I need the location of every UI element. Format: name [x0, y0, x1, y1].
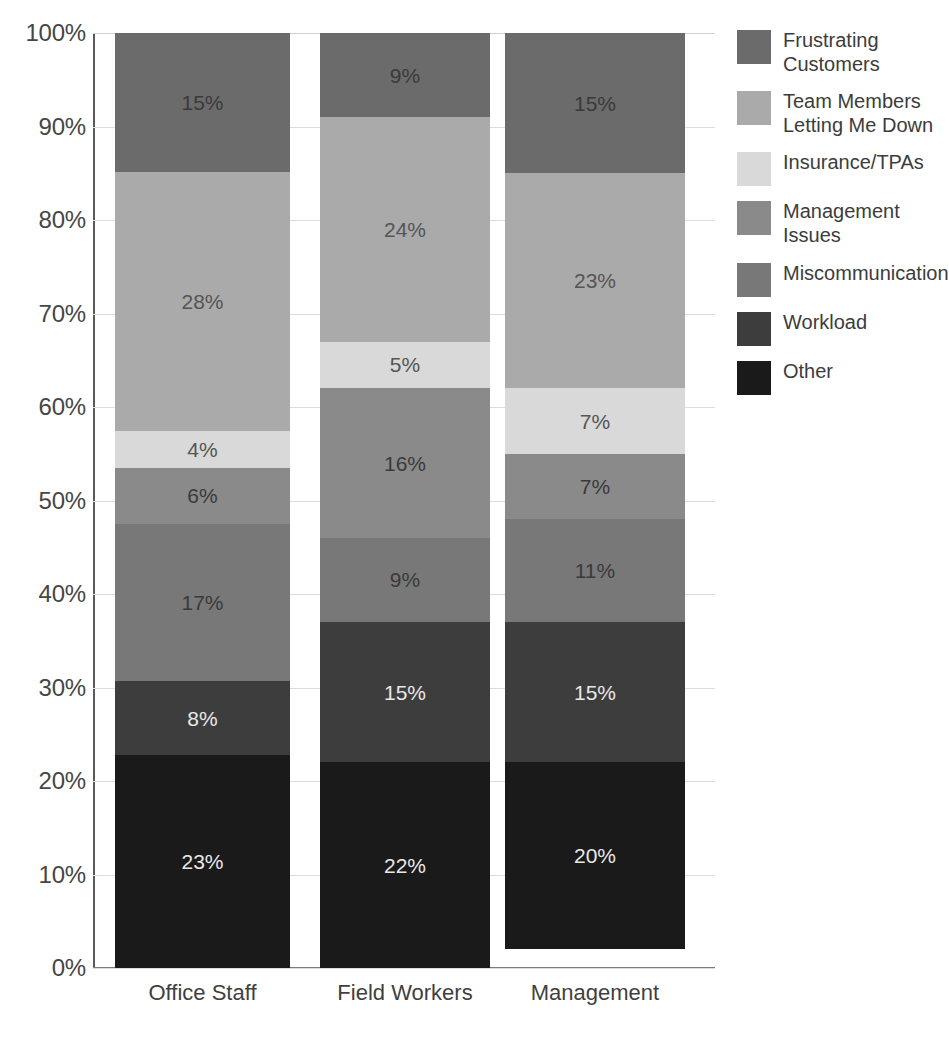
bar-segment[interactable]: 17%: [115, 524, 290, 681]
bar-segment[interactable]: 5%: [320, 342, 490, 389]
bar-segment-value-label: 5%: [390, 354, 420, 375]
bar-segment[interactable]: 15%: [505, 33, 685, 173]
legend-item-label: Insurance/TPAs: [783, 150, 924, 175]
bar-segment-value-label: 11%: [575, 560, 615, 581]
legend-item-label: Miscommunication: [783, 261, 949, 286]
bar-segment-value-label: 28%: [181, 291, 223, 312]
bar-segment[interactable]: 9%: [320, 538, 490, 622]
stacked-bar[interactable]: 9%24%5%16%9%15%22%: [320, 33, 490, 968]
bar-segment-value-label: 15%: [384, 682, 426, 703]
y-axis-tick-label: 10%: [6, 861, 86, 889]
y-axis-tick-label: 100%: [6, 19, 86, 47]
legend-item[interactable]: Team Members Letting Me Down: [737, 89, 949, 137]
y-axis-tick-label: 40%: [6, 580, 86, 608]
gridline: [93, 968, 715, 969]
bar-segment[interactable]: 24%: [320, 117, 490, 341]
bar-segment-value-label: 16%: [384, 453, 426, 474]
bar-segment-value-label: 15%: [574, 682, 616, 703]
bar-segment-value-label: 23%: [574, 270, 616, 291]
bar-segment[interactable]: 11%: [505, 519, 685, 622]
legend-swatch: [737, 361, 771, 395]
legend-swatch: [737, 30, 771, 64]
y-axis-tick-label: 90%: [6, 113, 86, 141]
bar-group[interactable]: 15%23%7%7%11%15%20%: [505, 33, 685, 968]
bar-segment[interactable]: 7%: [505, 388, 685, 453]
legend-item[interactable]: Management Issues: [737, 199, 949, 247]
bar-segment[interactable]: 22%: [320, 762, 490, 968]
plot-area: 15%28%4%6%17%8%23%9%24%5%16%9%15%22%15%2…: [93, 33, 715, 968]
bar-segment-value-label: 23%: [181, 851, 223, 872]
bar-group[interactable]: 9%24%5%16%9%15%22%: [320, 33, 490, 968]
legend-swatch: [737, 312, 771, 346]
y-axis-tick-label: 60%: [6, 393, 86, 421]
y-axis-tick-label: 20%: [6, 767, 86, 795]
bar-segment-value-label: 17%: [181, 592, 223, 613]
bar-segment[interactable]: 6%: [115, 468, 290, 524]
legend-item[interactable]: Workload: [737, 310, 949, 346]
bar-segment-value-label: 15%: [574, 93, 616, 114]
bar-group[interactable]: 15%28%4%6%17%8%23%: [115, 33, 290, 968]
bar-segment[interactable]: 8%: [115, 681, 290, 755]
y-axis-tick-labels: 0%10%20%30%40%50%60%70%80%90%100%: [0, 33, 86, 968]
bar-segment[interactable]: 7%: [505, 454, 685, 519]
legend-item[interactable]: Frustrating Customers: [737, 28, 949, 76]
y-axis-tick-label: 50%: [6, 487, 86, 515]
legend-swatch: [737, 201, 771, 235]
bar-segment[interactable]: 16%: [320, 388, 490, 538]
legend-swatch: [737, 263, 771, 297]
bar-segment[interactable]: 23%: [505, 173, 685, 388]
legend-item-label: Other: [783, 359, 833, 384]
legend-item[interactable]: Miscommunication: [737, 261, 949, 297]
bar-segment[interactable]: 15%: [115, 33, 290, 172]
bar-segment-value-label: 9%: [390, 569, 420, 590]
bar-segment-value-label: 6%: [187, 485, 217, 506]
bar-segment[interactable]: 20%: [505, 762, 685, 949]
legend-swatch: [737, 91, 771, 125]
legend-item-label: Frustrating Customers: [783, 28, 880, 76]
legend-item-label: Management Issues: [783, 199, 949, 247]
bar-segment-value-label: 15%: [181, 92, 223, 113]
y-axis-tick-label: 70%: [6, 300, 86, 328]
legend-item[interactable]: Other: [737, 359, 949, 395]
bar-segment-value-label: 8%: [187, 708, 217, 729]
bar-segment-value-label: 20%: [574, 845, 616, 866]
stacked-bar[interactable]: 15%23%7%7%11%15%20%: [505, 33, 685, 968]
bar-segment-value-label: 24%: [384, 219, 426, 240]
x-axis-tick-label: Office Staff: [115, 980, 290, 1006]
x-axis-tick-label: Management: [505, 980, 685, 1006]
stacked-bar-chart: 0%10%20%30%40%50%60%70%80%90%100% 15%28%…: [0, 0, 949, 1039]
y-axis-tick-label: 30%: [6, 674, 86, 702]
bar-segment[interactable]: 15%: [320, 622, 490, 762]
y-axis-tick-label: 80%: [6, 206, 86, 234]
bar-segment-value-label: 22%: [384, 855, 426, 876]
stacked-bar[interactable]: 15%28%4%6%17%8%23%: [115, 33, 290, 968]
bar-segment[interactable]: 28%: [115, 172, 290, 431]
legend-item[interactable]: Insurance/TPAs: [737, 150, 949, 186]
x-axis-tick-label: Field Workers: [320, 980, 490, 1006]
legend-swatch: [737, 152, 771, 186]
bar-segment-value-label: 7%: [580, 476, 610, 497]
bar-segment[interactable]: 9%: [320, 33, 490, 117]
legend-item-label: Team Members Letting Me Down: [783, 89, 933, 137]
bar-segment-value-label: 4%: [187, 439, 217, 460]
legend: Frustrating CustomersTeam Members Lettin…: [737, 28, 949, 408]
bar-segment-value-label: 9%: [390, 65, 420, 86]
bar-segment[interactable]: 23%: [115, 755, 290, 968]
bar-segment-value-label: 7%: [580, 411, 610, 432]
legend-item-label: Workload: [783, 310, 867, 335]
bar-segment[interactable]: 4%: [115, 431, 290, 468]
bar-segment[interactable]: 15%: [505, 622, 685, 762]
y-axis-tick-label: 0%: [6, 954, 86, 982]
